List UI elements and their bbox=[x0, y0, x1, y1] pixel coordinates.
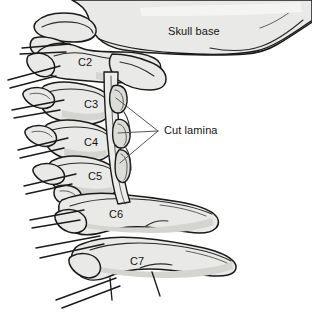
vertebra-c6-group bbox=[55, 193, 219, 235]
label-c6: C6 bbox=[109, 209, 123, 220]
cut-lamina-fragment-middle bbox=[113, 119, 130, 148]
nerve-root-line bbox=[56, 278, 116, 300]
label-c7: C7 bbox=[130, 256, 144, 267]
label-c5: C5 bbox=[88, 171, 102, 182]
vertebra-c7-anterior-process bbox=[69, 254, 101, 278]
cut-lamina-fragment-upper bbox=[110, 85, 127, 113]
label-skull-base: Skull base bbox=[168, 26, 220, 37]
label-c3: C3 bbox=[84, 99, 98, 110]
label-c4: C4 bbox=[84, 137, 98, 148]
label-cut-lamina: Cut lamina bbox=[164, 125, 218, 136]
cervical-spine-figure: Skull base Cut lamina C2 C3 C4 C5 C6 C7 bbox=[0, 0, 312, 318]
anatomical-illustration bbox=[0, 0, 312, 318]
label-c2: C2 bbox=[78, 57, 92, 68]
